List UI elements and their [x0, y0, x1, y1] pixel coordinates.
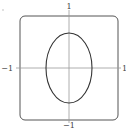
ellipse-plot: 1 −1 −1 1	[0, 0, 126, 129]
corner-mark	[2, 9, 4, 11]
x-min-label: −1	[1, 64, 13, 73]
y-max-label: 1	[66, 2, 71, 11]
y-min-label: −1	[63, 121, 75, 129]
x-max-label: 1	[122, 64, 126, 73]
